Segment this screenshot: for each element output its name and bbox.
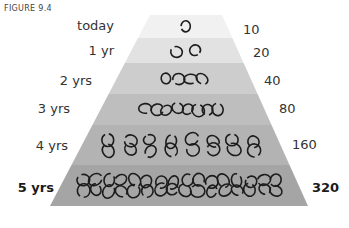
count-label-10: 10 [243, 22, 260, 37]
pyramid-band-1 [125, 38, 244, 63]
count-label-20: 20 [253, 45, 270, 60]
level-label-4yrs: 4 yrs [0, 138, 68, 153]
level-label-2yrs: 2 yrs [12, 73, 92, 88]
count-label-80: 80 [279, 101, 296, 116]
level-label-5yrs: 5 yrs [0, 180, 54, 195]
count-label-160: 160 [292, 137, 317, 152]
level-label-3yrs: 3 yrs [0, 101, 70, 116]
pyramid-band-2 [109, 63, 258, 94]
pyramid-band-0 [138, 15, 232, 38]
count-label-320: 320 [312, 180, 339, 195]
level-label-1yr: 1 yr [34, 43, 114, 58]
level-label-today: today [34, 18, 114, 33]
count-label-40: 40 [264, 73, 281, 88]
